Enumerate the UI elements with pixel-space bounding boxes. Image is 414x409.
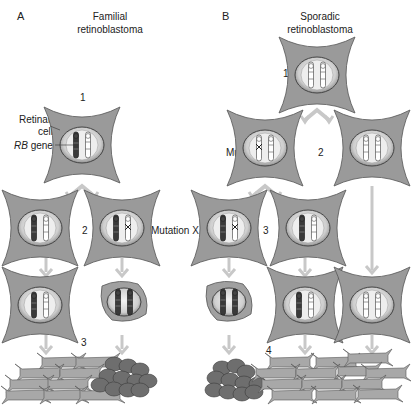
panel-b-cell-1 bbox=[279, 37, 355, 113]
panel-b-arrow-2 bbox=[299, 258, 311, 276]
panel-a-arrow-left-2 bbox=[40, 335, 52, 353]
panel-b-arrow-1 bbox=[223, 258, 235, 276]
panel-a-cell-3-left bbox=[2, 267, 78, 343]
panel-b-tumor-mass bbox=[205, 359, 267, 401]
panel-b-cell-2-left bbox=[227, 110, 303, 186]
panel-b-arrow-5 bbox=[366, 335, 378, 353]
panel-b-cell-3-right bbox=[270, 190, 346, 266]
panel-b-cell-3-left bbox=[191, 190, 267, 266]
panel-a-cell-2-left bbox=[2, 190, 78, 266]
diagram-canvas bbox=[0, 0, 414, 409]
panel-a-arrow-right-1 bbox=[116, 258, 128, 276]
panel-b-split-arrow-1 bbox=[301, 110, 333, 122]
panel-b-long-arrow bbox=[366, 186, 378, 273]
panel-b-arrow-3 bbox=[223, 335, 235, 353]
panel-b-normal-tissue bbox=[251, 349, 411, 404]
panel-b-cell-4-right bbox=[334, 267, 410, 343]
panel-b-tumor-cell bbox=[206, 281, 252, 321]
panel-a-arrow-right-2 bbox=[116, 335, 128, 353]
panel-b-arrow-4 bbox=[299, 335, 311, 353]
panel-b-cell-2-right bbox=[334, 110, 410, 186]
panel-a-tumor-cell bbox=[101, 281, 147, 321]
panel-a-cell-2-right bbox=[84, 190, 160, 266]
panel-a-arrow-left-1 bbox=[40, 258, 52, 276]
panel-b-cell-4-middle bbox=[267, 267, 343, 343]
